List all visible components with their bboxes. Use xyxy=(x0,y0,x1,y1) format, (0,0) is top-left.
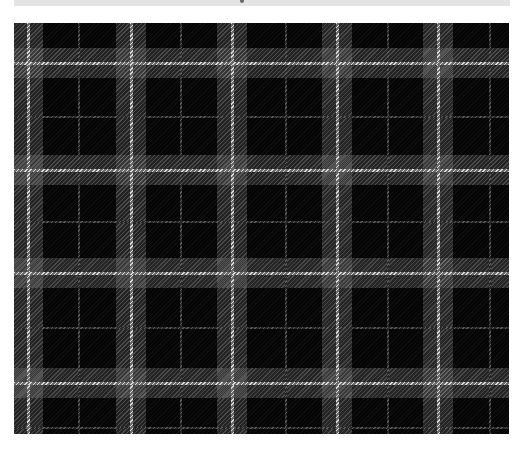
plaid-bright-stripe-vertical xyxy=(27,23,30,434)
plaid-dim-stripe-horizontal xyxy=(14,116,509,118)
plaid-bright-stripe-horizontal xyxy=(14,62,509,65)
plaid-dim-stripe-vertical xyxy=(180,23,182,434)
plaid-bright-stripe-vertical xyxy=(231,23,234,434)
plaid-dim-stripe-vertical xyxy=(387,23,389,434)
plaid-bright-stripe-vertical xyxy=(130,23,133,434)
plaid-dim-stripe-horizontal xyxy=(14,221,509,223)
top-caption-bar xyxy=(14,0,510,6)
plaid-dim-stripe-vertical xyxy=(78,23,80,434)
plaid-dim-stripe-vertical xyxy=(285,23,287,434)
plaid-dim-stripe-horizontal xyxy=(14,427,509,429)
plaid-bright-stripe-vertical xyxy=(336,23,339,434)
plaid-fabric-image xyxy=(14,23,509,434)
plaid-bright-stripe-horizontal xyxy=(14,382,509,385)
plaid-dim-stripe-horizontal xyxy=(14,327,509,329)
plaid-bright-stripe-horizontal xyxy=(14,272,509,275)
plaid-bright-stripe-horizontal xyxy=(14,169,509,172)
plaid-dim-stripe-vertical xyxy=(489,23,491,434)
plaid-bright-stripe-vertical xyxy=(437,23,440,434)
